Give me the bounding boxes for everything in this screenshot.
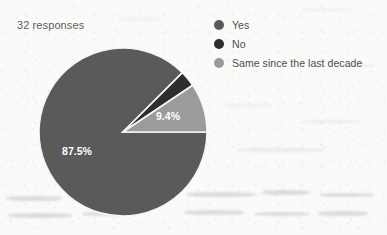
responses-count-label: 32 responses	[17, 19, 84, 31]
legend-dot-icon	[214, 58, 224, 68]
legend-label: Yes	[232, 19, 249, 31]
legend-item-yes[interactable]: Yes	[214, 18, 362, 31]
chart-legend: Yes No Same since the last decade	[214, 18, 362, 69]
legend-item-same-since-the-last-decade[interactable]: Same since the last decade	[214, 56, 362, 69]
slice-label-same-since-the-last-decade: 9.4%	[156, 110, 181, 122]
pie-chart: 87.5% 9.4%	[39, 48, 207, 216]
legend-dot-icon	[214, 20, 224, 30]
legend-label: Same since the last decade	[232, 57, 362, 69]
chart-page: 32 responses Yes No Same since the last …	[0, 0, 387, 235]
pie-chart-svg: 87.5% 9.4%	[39, 48, 207, 216]
legend-label: No	[232, 38, 246, 50]
legend-dot-icon	[214, 39, 224, 49]
legend-item-no[interactable]: No	[214, 37, 362, 50]
slice-label-yes: 87.5%	[62, 145, 92, 157]
